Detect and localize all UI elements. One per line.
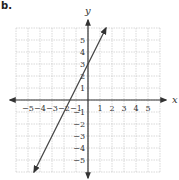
y-tick-label: −1 [73,108,85,117]
x-tick-label: 3 [121,104,126,113]
x-tick-label: 5 [145,104,150,113]
x-tick-label: 1 [97,104,102,113]
x-tick-label: 4 [133,104,138,113]
y-tick-label: −3 [73,132,85,141]
coordinate-plane: xy−5−4−3−2−11234554321−1−2−3−4−5 [0,0,179,180]
x-tick-label: −4 [34,104,46,113]
x-axis-label: x [172,94,178,105]
y-tick-label: −2 [73,120,85,129]
y-axis-label: y [84,5,91,16]
y-tick-label: 1 [80,84,85,93]
y-tick-label: 3 [80,60,85,69]
y-tick-label: −5 [73,156,85,165]
y-tick-label: 5 [80,36,85,45]
y-tick-label: −4 [73,144,85,153]
x-tick-label: −3 [46,104,58,113]
x-tick-label: 2 [109,104,114,113]
x-tick-label: −5 [22,104,34,113]
y-tick-label: 4 [80,48,85,57]
